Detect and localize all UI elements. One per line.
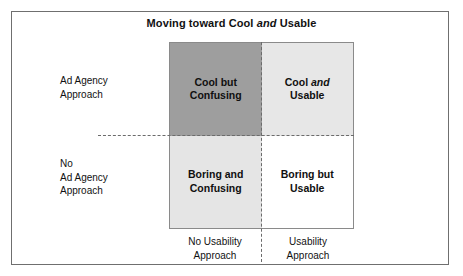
quadrant-label-line1-emphasis: and <box>311 76 330 88</box>
column-label-line: Approach <box>262 249 354 263</box>
figure-title-suffix: Usable <box>277 17 317 29</box>
column-label-usability-approach: Usability Approach <box>262 235 354 262</box>
quadrant-label: Boring but Usable <box>281 168 334 195</box>
column-label-line: No Usability <box>169 235 261 249</box>
row-label-line: Ad Agency <box>60 74 156 88</box>
quadrant-label: Cool and Usable <box>285 76 330 103</box>
horizontal-axis-dashed-line <box>98 135 354 136</box>
quadrant-label-line1: Boring but <box>281 168 334 181</box>
quadrant-label-line1: Cool but <box>190 76 242 89</box>
row-label-line: Approach <box>60 88 156 102</box>
quadrant-cool-but-confusing: Cool but Confusing <box>170 43 262 136</box>
figure-title: Moving toward Cool and Usable <box>0 17 463 29</box>
figure-container: Moving toward Cool and Usable Cool but C… <box>0 0 463 276</box>
quadrant-boring-and-confusing: Boring and Confusing <box>170 136 262 229</box>
row-label-line: Approach <box>60 184 156 198</box>
row-label-line: No <box>60 157 156 171</box>
quadrant-boring-but-usable: Boring but Usable <box>262 136 354 229</box>
quadrant-label-line1: Cool and <box>285 76 330 89</box>
row-label-ad-agency-approach: Ad Agency Approach <box>60 74 156 101</box>
column-label-no-usability-approach: No Usability Approach <box>169 235 261 262</box>
quadrant-label-line1: Boring and <box>188 168 243 181</box>
quadrant-label-line2: Confusing <box>190 89 242 102</box>
quadrant-label-line2: Usable <box>285 89 330 102</box>
quadrant-label-line2: Usable <box>281 182 334 195</box>
quadrant-label-line2: Confusing <box>188 182 243 195</box>
quadrant-label: Cool but Confusing <box>190 76 242 103</box>
column-label-line: Usability <box>262 235 354 249</box>
quadrant-label-line1-prefix: Cool <box>285 76 311 88</box>
figure-title-prefix: Moving toward Cool <box>147 17 257 29</box>
row-label-no-ad-agency-approach: No Ad Agency Approach <box>60 157 156 198</box>
figure-title-emphasis: and <box>257 17 277 29</box>
quadrant-cool-and-usable: Cool and Usable <box>262 43 354 136</box>
row-label-line: Ad Agency <box>60 171 156 185</box>
vertical-axis-dashed-line <box>261 42 262 262</box>
column-label-line: Approach <box>169 249 261 263</box>
quadrant-label: Boring and Confusing <box>188 168 243 195</box>
